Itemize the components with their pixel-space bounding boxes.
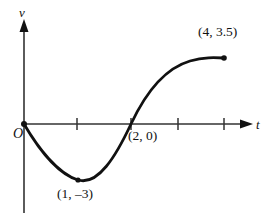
point-marker-endpoint (221, 55, 227, 61)
velocity-time-graph-figure: v t O (2, 0) (1, –3) (4, 3.5) (0, 0, 272, 221)
point-label-minimum: (1, –3) (57, 187, 93, 201)
y-axis-label: v (19, 6, 25, 19)
point-marker-minimum (75, 177, 80, 182)
y-axis-arrowhead (20, 19, 29, 32)
point-label-endpoint: (4, 3.5) (198, 25, 237, 39)
point-label-zero-crossing: (2, 0) (128, 129, 157, 143)
y-axis (20, 19, 29, 213)
x-axis-arrowhead (240, 120, 253, 129)
velocity-curve (24, 58, 224, 181)
origin-label: O (13, 127, 23, 141)
x-axis-label: t (256, 118, 260, 131)
